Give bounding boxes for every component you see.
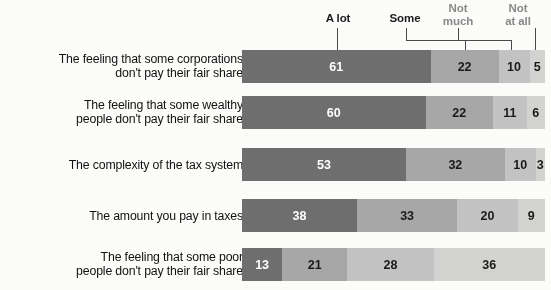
bar-segment-a-lot: 61 (242, 50, 431, 83)
legend-label-not-much: Not much (437, 2, 479, 27)
legend-leader-not-much-elbow (458, 40, 512, 41)
bar-segment-not-much: 10 (499, 50, 530, 83)
bar-segment-not-much: 28 (347, 248, 434, 281)
chart-row: The feeling that some wealthy people don… (0, 96, 551, 129)
bar-segment-not-at-all: 9 (518, 199, 545, 232)
row-label: The complexity of the tax system (69, 157, 243, 172)
legend-leader-not-much-drop (511, 40, 512, 50)
chart-row: The complexity of the tax system 53 32 1… (0, 148, 551, 181)
chart-row: The amount you pay in taxes 38 33 20 9 (0, 199, 551, 232)
stacked-bar: 60 22 11 6 (242, 96, 545, 129)
bar-segment-some: 22 (431, 50, 499, 83)
bar-segment-not-much: 10 (505, 148, 536, 181)
bar-segment-not-much: 20 (457, 199, 518, 232)
bar-segment-a-lot: 38 (242, 199, 357, 232)
legend-label-some: Some (382, 12, 428, 25)
legend-leader-some-elbow (406, 40, 466, 41)
stacked-bar: 53 32 10 3 (242, 148, 545, 181)
bar-segment-not-at-all: 5 (530, 50, 545, 83)
legend-leader-not-at-all (535, 28, 536, 50)
legend-leader-some-drop (465, 40, 466, 50)
bar-segment-some: 22 (426, 96, 493, 129)
chart-row: The feeling that some corporations don't… (0, 50, 551, 83)
row-label: The feeling that some poor people don't … (76, 250, 243, 279)
row-label: The feeling that some wealthy people don… (76, 98, 243, 127)
stacked-bar-chart: A lot Some Not much Not at all The feeli… (0, 0, 551, 290)
stacked-bar: 38 33 20 9 (242, 199, 545, 232)
bar-segment-a-lot: 53 (242, 148, 406, 181)
bar-segment-some: 21 (282, 248, 347, 281)
legend-leader-a-lot (337, 28, 338, 50)
chart-row: The feeling that some poor people don't … (0, 248, 551, 281)
bar-segment-not-at-all: 6 (527, 96, 545, 129)
row-label: The feeling that some corporations don't… (59, 52, 243, 81)
legend-label-not-at-all: Not at all (493, 2, 543, 27)
bar-segment-a-lot: 13 (242, 248, 282, 281)
bar-segment-not-at-all: 36 (434, 248, 545, 281)
stacked-bar: 61 22 10 5 (242, 50, 545, 83)
bar-segment-some: 32 (406, 148, 505, 181)
row-label: The amount you pay in taxes (89, 208, 243, 223)
bar-segment-not-at-all: 3 (536, 148, 545, 181)
legend-label-a-lot: A lot (310, 12, 366, 25)
chart-legend: A lot Some Not much Not at all (0, 0, 551, 46)
bar-segment-some: 33 (357, 199, 457, 232)
bar-segment-not-much: 11 (493, 96, 527, 129)
bar-segment-a-lot: 60 (242, 96, 426, 129)
stacked-bar: 13 21 28 36 (242, 248, 545, 281)
